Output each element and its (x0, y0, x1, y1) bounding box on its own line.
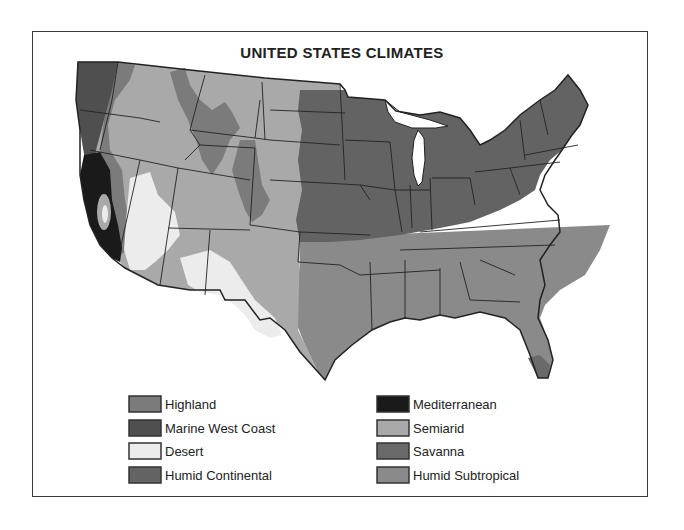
legend-swatch-humid-subtropical (377, 467, 409, 483)
legend-label: Semiarid (413, 421, 464, 436)
legend-item-highland: Highland (165, 395, 216, 413)
legend-swatch-semiarid (377, 420, 409, 436)
legend-label: Marine West Coast (165, 421, 275, 436)
legend-item-humid-continental: Humid Continental (165, 466, 272, 484)
legend-item-savanna: Savanna (413, 442, 464, 460)
legend-label: Highland (165, 397, 216, 412)
legend-item-humid-subtropical: Humid Subtropical (413, 466, 519, 484)
legend-item-marine-west-coast: Marine West Coast (165, 419, 275, 437)
legend-label: Humid Subtropical (413, 468, 519, 483)
legend-label: Mediterranean (413, 397, 497, 412)
legend-label: Savanna (413, 444, 464, 459)
legend-swatch-mediterranean (377, 396, 409, 412)
legend-item-desert: Desert (165, 442, 203, 460)
legend-label: Desert (165, 444, 203, 459)
us-climate-map (0, 0, 684, 530)
legend-swatch-humid-continental (129, 467, 161, 483)
region-humid-continental (296, 75, 588, 242)
region-central-valley-inner (102, 205, 108, 223)
legend-swatch-savanna (377, 443, 409, 459)
legend-item-mediterranean: Mediterranean (413, 395, 497, 413)
legend-swatch-desert (129, 443, 161, 459)
legend-label: Humid Continental (165, 468, 272, 483)
legend-item-semiarid: Semiarid (413, 419, 464, 437)
legend-swatch-highland (129, 396, 161, 412)
legend-swatch-marine-west-coast (129, 420, 161, 436)
